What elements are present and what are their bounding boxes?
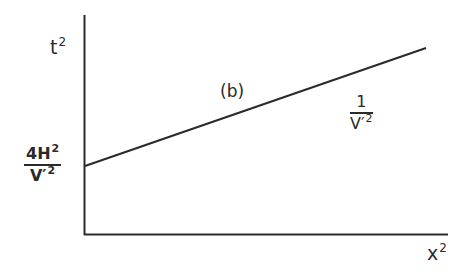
data-line-b [85,48,426,166]
slope-denominator-exponent: 2 [366,112,373,125]
x-axis-label-base: x [427,242,438,264]
x-axis-label-exponent: 2 [439,241,447,255]
intercept-denominator-base: V′ [30,166,47,185]
intercept-denominator-exponent: 2 [48,164,56,177]
slope-numerator: 1 [354,94,368,112]
y-axis-label-exponent: 2 [58,35,66,49]
y-axis-label: t2 [50,38,66,57]
intercept-numerator: 4H2 [24,146,61,164]
slope-denominator-base: V′ [350,114,365,133]
curve-label: (b) [220,83,244,100]
intercept-denominator: V′2 [30,166,55,184]
y-axis-label-base: t [50,36,57,58]
intercept-numerator-base: 4H [26,144,51,163]
intercept-numerator-exponent: 2 [52,142,60,155]
slope-label: 1 V′2 [350,94,373,132]
x-axis-label: x2 [427,244,447,263]
slope-denominator: V′2 [350,114,373,132]
plot-area [0,0,471,276]
intercept-label: 4H2 V′2 [24,146,61,184]
